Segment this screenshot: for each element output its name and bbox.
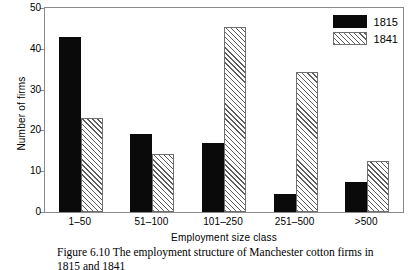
bar-1815-2	[130, 134, 152, 212]
bar-1841-2	[152, 154, 174, 212]
bar-1841-1	[81, 118, 103, 212]
x-axis-tick-label: 251–500	[259, 216, 331, 227]
y-axis-tick-label: 20	[30, 123, 41, 136]
bar-1815-3	[202, 143, 224, 212]
chart-legend: 18151841	[331, 11, 400, 49]
legend-label-1815: 1815	[374, 16, 398, 28]
x-axis-tick-label: 101–250	[187, 216, 259, 227]
y-axis-tick-label: 30	[30, 83, 41, 96]
y-axis-tick-label: 50	[30, 1, 41, 14]
legend-swatch-1815	[333, 15, 367, 28]
y-axis-tick-label: 40	[30, 42, 41, 55]
y-axis-tick-label: 0	[35, 205, 41, 218]
legend-item-1841: 1841	[333, 30, 398, 47]
figure-caption: Figure 6.10 The employment structure of …	[57, 246, 411, 270]
bar-1815-4	[274, 194, 296, 212]
bar-1841-3	[224, 27, 246, 212]
figure-bar-chart: Number of firms 01020304050 Employment s…	[0, 0, 411, 270]
legend-item-1815: 1815	[333, 13, 398, 30]
x-axis-tick-label: 1–50	[44, 216, 116, 227]
caption-line-1: Figure 6.10 The employment structure of …	[57, 246, 411, 260]
legend-label-1841: 1841	[374, 33, 398, 45]
x-axis-tick-label: 51–100	[116, 216, 188, 227]
bar-1841-4	[296, 72, 318, 212]
bar-1841-5	[367, 161, 389, 212]
y-axis-title: Number of firms	[16, 44, 27, 184]
x-axis-tick-label: >500	[330, 216, 402, 227]
legend-swatch-1841	[333, 32, 367, 45]
bar-1815-5	[345, 182, 367, 212]
y-axis-tick-label: 10	[30, 164, 41, 177]
caption-line-2: 1815 and 1841	[57, 260, 411, 270]
bar-1815-1	[59, 37, 81, 212]
x-axis-title: Employment size class	[44, 232, 404, 243]
